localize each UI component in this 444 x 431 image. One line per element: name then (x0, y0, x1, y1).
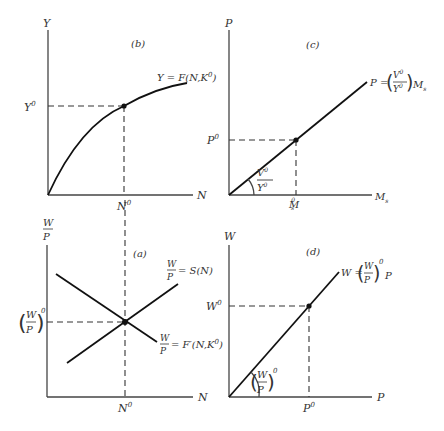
panel-d-p0-tick: P0 (302, 401, 315, 415)
panel-b-n0-tick: N0 (116, 199, 132, 213)
price-money-line-label: P = ( V0 Y0 ) Ms (369, 68, 426, 94)
panel-a-labor-market: W P N (a) N0 ( W P ) 0 W P = S(N) W P (18, 200, 223, 415)
panel-c-ms0-tick: M0s (288, 196, 300, 211)
svg-text:Y0: Y0 (257, 181, 268, 193)
labor-demand-label: W P = F′(N,K0) (159, 333, 223, 356)
panel-c-quantity-theory: P Ms (c) P0 M0s V0 Y0 P = ( V0 Y0 ) Ms (206, 17, 426, 211)
panel-c-slope-label: V0 Y0 (257, 166, 273, 193)
four-quadrant-macro-diagram: Y N (b) Y0 N0 Y = F(N,K0) P Ms (c) P0 M0… (0, 0, 444, 431)
panel-c-tag: (c) (306, 39, 320, 50)
svg-text:P: P (25, 324, 33, 335)
panel-b-y-axis-label: Y (43, 17, 52, 30)
panel-d-equilibrium-point (306, 303, 311, 308)
svg-text:P: P (256, 384, 264, 395)
svg-text:W: W (43, 217, 54, 228)
svg-text:Y0: Y0 (393, 82, 403, 94)
panel-d-tag: (d) (306, 246, 320, 257)
svg-text:0: 0 (379, 258, 384, 266)
svg-text:= F′(N,K0): = F′(N,K0) (171, 338, 223, 350)
panel-a-x-axis-label: N (197, 391, 208, 404)
svg-text:P: P (166, 272, 174, 282)
wage-price-line-label: W = ( W P ) 0 P (341, 258, 392, 285)
svg-text:= S(N): = S(N) (178, 265, 213, 276)
panel-c-p0-tick: P0 (206, 133, 219, 147)
svg-text:V0: V0 (393, 68, 404, 80)
panel-c-equilibrium-point (293, 137, 298, 142)
panel-c-x-axis-label: Ms (374, 191, 388, 204)
svg-text:P: P (159, 346, 167, 356)
panel-b-tag: (b) (131, 38, 145, 49)
wage-price-line (229, 272, 339, 397)
panel-b-equilibrium-point (121, 103, 126, 108)
panel-b-production-function: Y N (b) Y0 N0 Y = F(N,K0) (24, 17, 216, 213)
svg-text:P: P (384, 270, 392, 281)
svg-text:W: W (160, 333, 170, 343)
panel-a-equilibrium-point (122, 319, 128, 325)
panel-d-y-axis-label: W (224, 230, 237, 243)
production-function-curve (48, 83, 187, 195)
panel-c-y-axis-label: P (224, 17, 233, 30)
svg-text:Ms: Ms (412, 79, 426, 92)
panel-b-x-axis-label: N (196, 189, 207, 202)
panel-c-slope-arc (248, 179, 254, 195)
panel-b-y0-tick: Y0 (24, 100, 36, 114)
svg-text:P: P (363, 275, 371, 285)
svg-text:V0: V0 (257, 166, 268, 178)
panel-a-n0-tick: N0 (117, 401, 133, 415)
svg-text:0: 0 (273, 367, 278, 375)
panel-a-y-axis-label: W P (42, 217, 54, 242)
labor-demand-curve (56, 274, 157, 342)
panel-d-wage-price: W P (d) W0 P0 ( W P ) 0 W = ( W P ) 0 P (206, 230, 392, 415)
svg-text:P: P (42, 231, 50, 242)
panel-a-real-wage-tick: ( W P ) 0 (18, 307, 46, 335)
svg-text:0: 0 (41, 307, 46, 315)
panel-d-slope-label: ( W P ) 0 (250, 367, 278, 395)
labor-supply-label: W P = S(N) (166, 259, 213, 282)
production-function-label: Y = F(N,K0) (157, 71, 216, 83)
svg-text:W: W (167, 259, 177, 269)
panel-d-x-axis-label: P (376, 391, 385, 404)
panel-d-w0-tick: W0 (206, 299, 222, 313)
panel-a-tag: (a) (133, 248, 147, 259)
